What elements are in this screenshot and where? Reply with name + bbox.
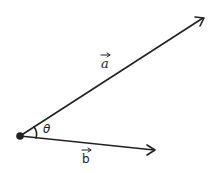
vector-a-label: a: [101, 56, 109, 71]
angle-arc: [34, 127, 37, 138]
vector-diagram: a b θ: [0, 0, 219, 174]
vector-b-line: [20, 136, 154, 150]
origin-point: [16, 132, 24, 140]
vector-a-line: [20, 18, 203, 136]
vector-b-label: b: [82, 152, 90, 166]
angle-theta-label: θ: [43, 122, 51, 136]
